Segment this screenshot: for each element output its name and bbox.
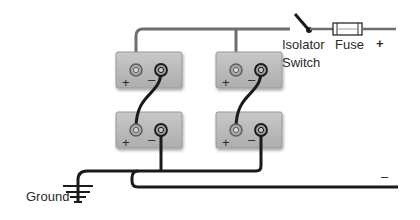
- fuse-icon: [333, 23, 396, 35]
- negative-output-wire: [132, 171, 398, 187]
- battery-bottom-right-plus-sign: +: [222, 136, 230, 149]
- switch-label: Switch: [282, 56, 320, 69]
- battery-top-left-minus-sign: –: [148, 73, 155, 86]
- terminal-top-right-positive: [230, 64, 242, 76]
- terminal-bottom-left-negative: [155, 124, 167, 136]
- negative-output-label: –: [381, 170, 388, 183]
- battery-top-right-minus-sign: –: [248, 73, 255, 86]
- positive-output-label: +: [376, 37, 384, 50]
- battery-top-right-plus-sign: +: [222, 76, 230, 89]
- terminal-top-left-positive: [130, 64, 142, 76]
- terminal-bottom-right-positive: [230, 124, 242, 136]
- fuse-label: Fuse: [335, 38, 364, 51]
- battery-top-left-plus-sign: +: [122, 76, 130, 89]
- battery-wiring-diagram: [0, 0, 420, 220]
- isolator-label: Isolator: [282, 38, 325, 51]
- battery-bottom-right-minus-sign: –: [248, 133, 255, 146]
- terminal-bottom-right-negative: [255, 124, 267, 136]
- battery-bottom-left-plus-sign: +: [122, 136, 130, 149]
- isolator-switch-icon: [295, 14, 333, 33]
- terminal-top-right-negative: [255, 64, 267, 76]
- ground-label: Ground: [26, 190, 69, 203]
- battery-bottom-left-minus-sign: –: [148, 133, 155, 146]
- terminal-bottom-left-positive: [130, 124, 142, 136]
- terminal-top-left-negative: [155, 64, 167, 76]
